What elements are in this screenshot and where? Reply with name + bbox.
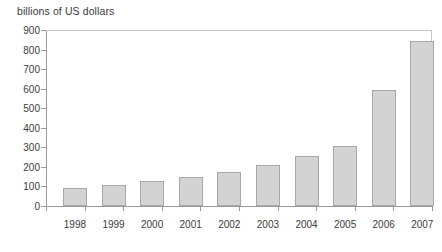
y-tick-label: 900 [0,25,40,36]
y-tick-label: 700 [0,64,40,75]
plot-top-border [46,30,432,31]
x-tick-label-2000: 2000 [141,219,163,230]
x-tick-mark [123,206,124,211]
x-tick-mark [200,206,201,211]
y-tick-label: 200 [0,161,40,172]
x-tick-label-2005: 2005 [334,219,356,230]
bar-2003 [256,165,280,206]
x-tick-label-1999: 1999 [102,219,124,230]
x-tick-mark [239,206,240,211]
bar-2004 [295,156,319,206]
x-tick-mark [355,206,356,211]
x-tick-mark [85,206,86,211]
y-tick-label: 400 [0,122,40,133]
x-tick-label-2003: 2003 [257,219,279,230]
plot-area [46,30,432,206]
y-tick-label: 600 [0,83,40,94]
bar-2007 [410,41,434,206]
y-tick-label: 0 [0,201,40,212]
x-tick-mark [316,206,317,211]
x-tick-label-2007: 2007 [411,219,433,230]
x-tick-mark [393,206,394,211]
x-tick-mark [162,206,163,211]
bar-chart: billions of US dollars 900 800 700 600 5… [0,0,442,252]
x-tick-label-2006: 2006 [373,219,395,230]
x-tick-label-1998: 1998 [64,219,86,230]
bar-2002 [217,172,241,206]
y-tick-label: 500 [0,103,40,114]
x-tick-mark [278,206,279,211]
bar-2000 [140,181,164,206]
x-tick-mark [46,206,47,211]
x-tick-label-2002: 2002 [218,219,240,230]
bar-2005 [333,146,357,206]
y-axis: 900 800 700 600 500 400 300 200 100 0 [0,0,40,252]
bar-2006 [372,90,396,206]
x-tick-label-2004: 2004 [295,219,317,230]
x-tick-mark [432,206,433,211]
x-tick-label-2001: 2001 [180,219,202,230]
y-tick-label: 100 [0,181,40,192]
y-tick-label: 800 [0,44,40,55]
bar-1998 [63,188,87,206]
y-tick-label: 300 [0,142,40,153]
bar-1999 [102,185,126,206]
bar-2001 [179,177,203,206]
